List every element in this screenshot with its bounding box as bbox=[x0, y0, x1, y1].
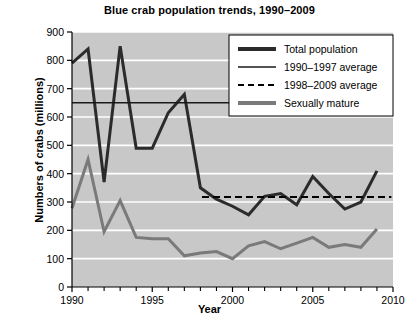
y-tick-label: 0 bbox=[58, 281, 64, 293]
chart-container: Blue crab population trends, 1990–2009 N… bbox=[0, 0, 419, 325]
x-tick-label: 2010 bbox=[381, 294, 405, 306]
y-tick-label: 900 bbox=[46, 26, 64, 38]
x-tick-label: 2000 bbox=[221, 294, 245, 306]
y-tick-label: 500 bbox=[46, 139, 64, 151]
y-tick-label: 600 bbox=[46, 111, 64, 123]
x-tick-label: 2005 bbox=[301, 294, 325, 306]
plot-area: 0100200300400500600700800900 19901995200… bbox=[0, 0, 419, 325]
legend-label-1: 1990–1997 average bbox=[284, 61, 378, 73]
y-tick-label: 700 bbox=[46, 83, 64, 95]
y-tick-label: 800 bbox=[46, 54, 64, 66]
y-tick-label: 200 bbox=[46, 224, 64, 236]
legend-label-3: Sexually mature bbox=[284, 97, 359, 109]
x-tick-label: 1990 bbox=[60, 294, 84, 306]
y-axis-ticks: 0100200300400500600700800900 bbox=[46, 26, 72, 293]
y-tick-label: 400 bbox=[46, 168, 64, 180]
y-tick-label: 300 bbox=[46, 196, 64, 208]
y-tick-label: 100 bbox=[46, 253, 64, 265]
legend-label-0: Total population bbox=[284, 43, 358, 55]
x-tick-label: 1995 bbox=[141, 294, 165, 306]
chart-legend: Total population1990–1997 average1998–20… bbox=[229, 35, 393, 116]
x-axis-ticks: 19901995200020052010 bbox=[60, 287, 405, 306]
legend-label-2: 1998–2009 average bbox=[284, 79, 378, 91]
